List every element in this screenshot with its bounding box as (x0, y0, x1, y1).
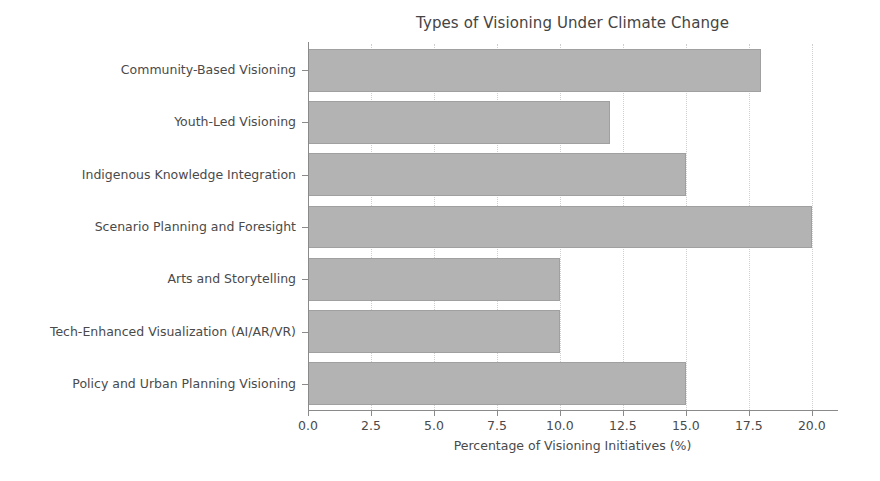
x-tick-7 (749, 411, 750, 416)
y-tick-6 (302, 384, 308, 385)
bar (308, 153, 686, 196)
y-axis-label: Arts and Storytelling (168, 272, 296, 286)
x-axis-tick-label: 7.5 (487, 418, 507, 433)
y-axis-label: Policy and Urban Planning Visioning (72, 377, 296, 391)
bar (308, 258, 560, 301)
y-tick-2 (302, 175, 308, 176)
x-axis-title: Percentage of Visioning Initiatives (%) (308, 438, 837, 453)
x-axis-tick-label: 10.0 (546, 418, 574, 433)
y-axis-label: Tech-Enhanced Visualization (AI/AR/VR) (50, 325, 296, 339)
y-tick-3 (302, 227, 308, 228)
plot-area (308, 44, 837, 410)
bar (308, 101, 610, 144)
gridline-x-8 (812, 44, 813, 410)
y-tick-1 (302, 122, 308, 123)
x-tick-1 (371, 411, 372, 416)
y-axis-label: Youth-Led Visioning (174, 115, 296, 129)
y-tick-0 (302, 70, 308, 71)
x-axis-tick-label: 15.0 (672, 418, 700, 433)
y-axis-spine (308, 42, 309, 412)
x-tick-2 (434, 411, 435, 416)
y-tick-5 (302, 332, 308, 333)
x-axis-tick-label: 2.5 (361, 418, 381, 433)
bar (308, 206, 812, 249)
y-tick-4 (302, 279, 308, 280)
y-axis-label: Scenario Planning and Foresight (95, 220, 296, 234)
x-axis-tick-label: 5.0 (424, 418, 444, 433)
x-axis-tick-label: 12.5 (609, 418, 637, 433)
x-tick-5 (623, 411, 624, 416)
chart-figure: Types of Visioning Under Climate Change … (0, 0, 880, 481)
x-tick-4 (560, 411, 561, 416)
x-axis-tick-label: 0.0 (298, 418, 318, 433)
bar (308, 49, 761, 92)
y-axis-label: Indigenous Knowledge Integration (82, 168, 296, 182)
bar (308, 362, 686, 405)
chart-title: Types of Visioning Under Climate Change (308, 14, 837, 32)
x-axis-spine (308, 410, 838, 411)
x-axis-tick-label: 17.5 (735, 418, 763, 433)
x-tick-8 (812, 411, 813, 416)
y-axis-label: Community-Based Visioning (121, 63, 296, 77)
x-axis-tick-label: 20.0 (798, 418, 826, 433)
x-tick-0 (308, 411, 309, 416)
x-tick-6 (686, 411, 687, 416)
bar (308, 310, 560, 353)
x-tick-3 (497, 411, 498, 416)
